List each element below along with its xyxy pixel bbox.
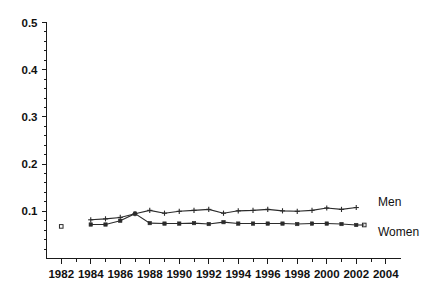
y-tick-label: 0.3: [22, 111, 38, 123]
x-tick-label: 2004: [373, 268, 399, 280]
x-tick-label: 1990: [166, 268, 192, 280]
y-tick-label: 0.2: [22, 158, 38, 170]
legend-label-men: Men: [378, 195, 401, 209]
data-point-marker: [148, 221, 151, 224]
y-tick-label: 0.5: [22, 17, 39, 29]
data-point-marker: [163, 222, 166, 225]
y-tick-label: 0.4: [22, 64, 39, 76]
data-point-marker: [178, 222, 181, 225]
x-tick-label: 2002: [343, 268, 369, 280]
legend-label-women: Women: [378, 225, 419, 239]
data-point-marker: [251, 222, 254, 225]
chart-container: 0.10.20.30.40.5 198219841986198819901992…: [0, 0, 435, 291]
data-point-marker: [192, 221, 195, 224]
data-point-marker: [207, 222, 210, 225]
x-tick-label: 1994: [225, 268, 251, 280]
x-tick-label: 2000: [314, 268, 340, 280]
x-axis: 1982198419861988199019921994199619982000…: [47, 259, 401, 280]
data-point-marker: [104, 223, 107, 226]
data-point-marker: [296, 222, 299, 225]
series-men: [88, 205, 359, 222]
x-tick-label: 1992: [196, 268, 222, 280]
data-point-marker: [89, 223, 92, 226]
data-point-marker: [325, 222, 328, 225]
x-tick-label: 1986: [107, 268, 133, 280]
y-tick-label: 0.1: [22, 205, 39, 217]
x-tick-label: 1982: [48, 268, 74, 280]
line-chart: 0.10.20.30.40.5 198219841986198819901992…: [0, 0, 435, 291]
data-point-marker: [119, 219, 122, 222]
data-point-marker: [222, 220, 225, 223]
chart-legend: MenWomen: [356, 195, 419, 239]
x-tick-label: 1984: [78, 268, 104, 280]
data-point-marker: [281, 222, 284, 225]
x-tick-label: 1988: [137, 268, 163, 280]
x-tick-label: 1998: [284, 268, 310, 280]
x-tick-label: 1996: [255, 268, 281, 280]
data-point-marker: [59, 225, 63, 229]
data-point-marker: [133, 212, 136, 215]
y-axis: 0.10.20.30.40.5: [22, 17, 47, 259]
series-isolated-1982: [59, 225, 63, 229]
data-point-marker: [340, 222, 343, 225]
data-series-group: [59, 205, 358, 228]
data-point-marker: [310, 222, 313, 225]
data-point-marker: [266, 222, 269, 225]
data-point-marker: [237, 222, 240, 225]
